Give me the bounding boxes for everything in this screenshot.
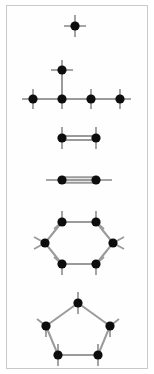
atom-node — [57, 65, 66, 74]
atom-node — [115, 94, 124, 103]
atom-node — [86, 94, 95, 103]
molecule-cyclohexane — [34, 211, 124, 275]
atom-node — [57, 217, 66, 226]
bond-order-1 — [78, 303, 110, 326]
atom-node — [57, 175, 66, 184]
bond-order-1 — [46, 326, 58, 355]
molecular-diagram-canvas — [0, 0, 154, 374]
atom-node — [91, 133, 100, 142]
atom-node — [40, 238, 49, 247]
atom-node — [53, 350, 62, 359]
atom-node — [73, 298, 82, 307]
atom-node — [105, 321, 114, 330]
atom-node — [91, 217, 100, 226]
atom-node — [93, 350, 102, 359]
molecule-isobutane — [22, 60, 131, 109]
bond-order-1 — [98, 326, 110, 355]
atom-node — [91, 175, 100, 184]
molecule-ethylene — [57, 127, 100, 149]
molecule-cyclopentane — [37, 292, 119, 366]
atom-node — [91, 259, 100, 268]
molecule-acetylene — [46, 175, 112, 184]
atom-node — [57, 133, 66, 142]
atom-node — [108, 238, 117, 247]
atom-node — [57, 259, 66, 268]
atom-node — [28, 94, 37, 103]
atom-node — [57, 94, 66, 103]
atom-node — [70, 21, 79, 30]
bond-order-1 — [46, 303, 78, 326]
figure-panel — [0, 0, 154, 374]
atom-node — [41, 321, 50, 330]
molecule-methane — [64, 15, 86, 37]
